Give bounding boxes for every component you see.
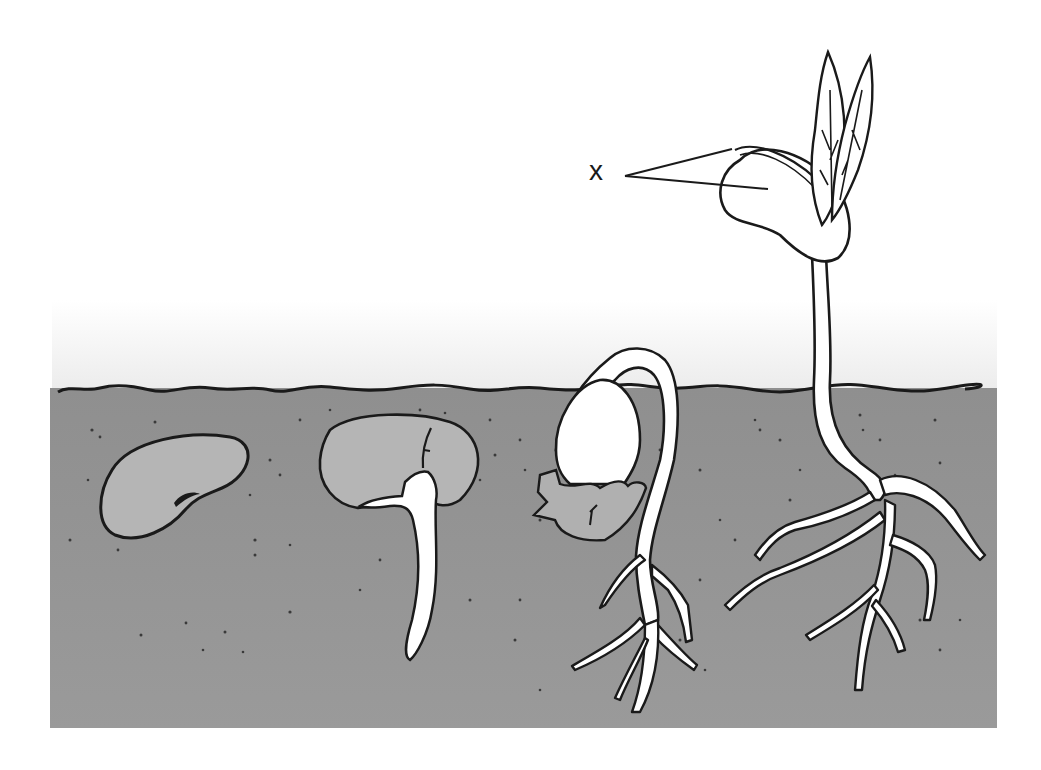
sky-band <box>52 300 997 390</box>
diagram-canvas <box>0 0 1041 770</box>
germination-diagram: x <box>0 0 1041 770</box>
cotyledon-label: x <box>589 157 603 185</box>
true-leaves <box>811 52 872 225</box>
